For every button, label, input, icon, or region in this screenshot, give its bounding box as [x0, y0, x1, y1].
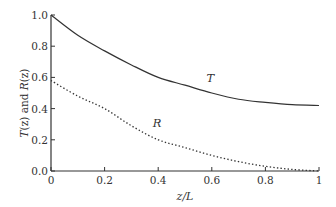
x-axis-title: z/L — [176, 190, 194, 203]
curve-label-t: T — [206, 71, 215, 85]
x-tick-label: 0.2 — [96, 174, 113, 186]
curve-label-r: R — [152, 116, 162, 130]
y-tick-label: 1.0 — [31, 9, 48, 21]
line-chart: 00.20.40.60.810.00.20.40.60.81.0TRz/LT(z… — [0, 0, 336, 207]
plot-area — [51, 15, 319, 171]
axes — [51, 15, 319, 171]
y-tick-label: 0.8 — [31, 40, 48, 52]
y-tick-label: 0.0 — [31, 165, 48, 177]
series-r-line — [51, 81, 319, 171]
y-tick-label: 0.4 — [31, 103, 48, 115]
labels: 00.20.40.60.810.00.20.40.60.81.0TRz/LT(z… — [18, 9, 322, 203]
x-tick-label: 0.4 — [150, 174, 167, 186]
series-t-line — [51, 15, 319, 105]
x-tick-label: 0.6 — [203, 174, 220, 186]
y-tick-label: 0.6 — [31, 71, 48, 83]
x-tick-label: 0.8 — [257, 174, 274, 186]
y-tick-label: 0.2 — [31, 134, 48, 146]
x-tick-label: 1 — [316, 174, 323, 186]
y-axis-title: T(z) and R(z) — [18, 69, 30, 138]
x-tick-label: 0 — [48, 174, 55, 186]
